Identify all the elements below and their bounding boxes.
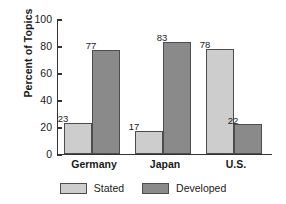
bar-japan-developed: [163, 42, 191, 154]
value-us-stated: 78: [191, 39, 219, 50]
legend-swatch-stated-icon: [60, 183, 87, 194]
y-tick-label-80: 80: [10, 40, 52, 52]
x-axis-label-us: U.S.: [205, 158, 267, 170]
x-axis-label-japan: Japan: [134, 158, 196, 170]
legend-label-developed: Developed: [176, 182, 226, 194]
value-germany-stated: 23: [49, 113, 77, 124]
x-axis-label-germany: Germany: [63, 158, 125, 170]
legend-swatch-developed-icon: [142, 183, 169, 194]
bar-chart: Percent of Topics 0 20 40 60 80 100 23 7: [0, 0, 286, 204]
value-japan-developed: 83: [148, 32, 176, 43]
legend-label-stated: Stated: [94, 182, 124, 194]
legend-item-developed: Developed: [142, 182, 226, 194]
bar-us-stated: [206, 49, 234, 154]
value-us-developed: 22: [219, 115, 247, 126]
bar-germany-stated: [64, 123, 92, 154]
legend-item-stated: Stated: [60, 182, 124, 194]
y-tick-label-20: 20: [10, 121, 52, 133]
value-germany-developed: 77: [77, 40, 105, 51]
y-tick-label-40: 40: [10, 94, 52, 106]
y-tick-label-100: 100: [10, 13, 52, 25]
chart-legend: Stated Developed: [0, 182, 286, 194]
value-japan-stated: 17: [120, 121, 148, 132]
bar-japan-stated: [135, 131, 163, 154]
y-tick-label-0: 0: [10, 148, 52, 160]
y-tick-label-60: 60: [10, 67, 52, 79]
bar-us-developed: [234, 124, 262, 154]
bar-germany-developed: [92, 50, 120, 154]
